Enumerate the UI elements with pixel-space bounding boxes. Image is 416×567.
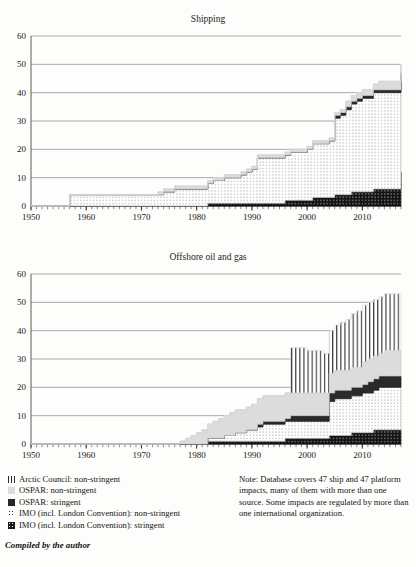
x-axis-tick-label: 2000 bbox=[298, 450, 316, 460]
x-axis-tick-label: 2010 bbox=[353, 212, 371, 222]
figure-credit: Compiled by the author bbox=[5, 540, 90, 550]
y-axis-tick-label: 30 bbox=[0, 116, 26, 126]
legend-item-ospar_stringent: OSPAR: stringent bbox=[5, 497, 210, 508]
y-axis-tick-label: 30 bbox=[0, 354, 26, 364]
figure-sheet: Shipping 0102030405060195019601970198019… bbox=[0, 0, 416, 567]
y-axis-tick-label: 50 bbox=[0, 297, 26, 307]
legend-item-imo_stringent: IMO (incl. London Convention): stringent bbox=[5, 520, 210, 531]
x-axis-tick-label: 1980 bbox=[188, 450, 206, 460]
legend-item-arctic_non_stringent: Arctic Council: non-stringent bbox=[5, 474, 210, 485]
x-axis-tick-label: 1970 bbox=[132, 212, 150, 222]
x-axis-tick-label: 1960 bbox=[77, 450, 95, 460]
y-axis-tick-label: 0 bbox=[0, 201, 26, 211]
legend-label: OSPAR: stringent bbox=[19, 497, 81, 508]
x-axis-tick-label: 1970 bbox=[132, 450, 150, 460]
x-axis-tick-label: 1990 bbox=[243, 212, 261, 222]
y-axis-tick-label: 10 bbox=[0, 411, 26, 421]
y-axis-tick-label: 20 bbox=[0, 144, 26, 154]
figure-footer: Arctic Council: non-stringentOSPAR: non-… bbox=[0, 470, 416, 567]
plot-area-offshore: 0102030405060195019601970198019902000201… bbox=[0, 268, 416, 464]
figure-note: Note: Database covers 47 ship and 47 pla… bbox=[239, 474, 413, 520]
legend-swatch-light-gray-solid bbox=[8, 487, 15, 494]
plot-area-shipping: 0102030405060195019601970198019902000201… bbox=[0, 30, 416, 226]
chart-title-shipping: Shipping bbox=[0, 14, 416, 24]
legend-item-ospar_non_stringent: OSPAR: non-stringent bbox=[5, 485, 210, 496]
y-axis-tick-label: 0 bbox=[0, 439, 26, 449]
legend-item-imo_non_stringent: IMO (incl. London Convention): non-strin… bbox=[5, 508, 210, 519]
legend-label: IMO (incl. London Convention): stringent bbox=[19, 520, 164, 531]
chart-title-offshore: Offshore oil and gas bbox=[0, 252, 416, 262]
y-axis-tick-label: 40 bbox=[0, 88, 26, 98]
chart-offshore: Offshore oil and gas 0102030405060195019… bbox=[0, 252, 416, 464]
x-axis-tick-label: 1990 bbox=[243, 450, 261, 460]
legend-swatch-vertical-lines-pattern bbox=[8, 476, 15, 483]
legend-swatch-dark-dot-pattern bbox=[8, 522, 15, 529]
legend-swatch-dark-solid bbox=[8, 499, 15, 506]
x-axis-tick-label: 2010 bbox=[353, 450, 371, 460]
x-axis-tick-label: 1960 bbox=[77, 212, 95, 222]
legend-label: IMO (incl. London Convention): non-strin… bbox=[19, 508, 180, 519]
x-axis-tick-label: 1980 bbox=[188, 212, 206, 222]
y-axis-tick-label: 10 bbox=[0, 173, 26, 183]
x-axis-tick-label: 1950 bbox=[22, 450, 40, 460]
x-axis-tick-label: 1950 bbox=[22, 212, 40, 222]
y-axis-tick-label: 50 bbox=[0, 59, 26, 69]
legend-label: Arctic Council: non-stringent bbox=[19, 474, 120, 485]
legend-swatch-fine-dot-pattern bbox=[8, 510, 15, 517]
y-axis-tick-label: 20 bbox=[0, 382, 26, 392]
y-axis-tick-label: 40 bbox=[0, 326, 26, 336]
y-axis-tick-label: 60 bbox=[0, 31, 26, 41]
x-axis-tick-label: 2000 bbox=[298, 212, 316, 222]
y-axis-tick-label: 60 bbox=[0, 269, 26, 279]
legend-label: OSPAR: non-stringent bbox=[19, 485, 96, 496]
area-series-imo_non_stringent bbox=[31, 76, 401, 206]
cut-off-header-text bbox=[0, 0, 416, 9]
chart-shipping: Shipping 0102030405060195019601970198019… bbox=[0, 14, 416, 226]
legend: Arctic Council: non-stringentOSPAR: non-… bbox=[5, 474, 210, 531]
